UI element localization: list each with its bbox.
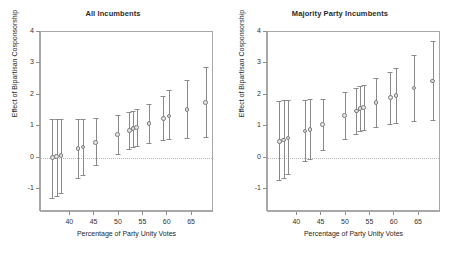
y-tick-label: 1: [30, 120, 34, 130]
error-bar-cap: [430, 120, 435, 121]
data-point: [76, 146, 81, 151]
data-point: [59, 153, 64, 158]
error-bar-cap: [394, 68, 399, 69]
error-bar-cap: [430, 41, 435, 42]
y-tick-label: 4: [30, 26, 34, 36]
panel-majority-party-incumbents: Majority Party Incumbents 4 3 2 1 0: [227, 0, 453, 260]
error-bar-cap: [80, 119, 85, 120]
error-bar-cap: [412, 121, 417, 122]
x-axis-line: [40, 211, 213, 212]
error-bar-cap: [93, 118, 98, 119]
data-point: [361, 105, 366, 110]
error-bar-cap: [307, 99, 312, 100]
y-axis-title: Effect of Bipartisan Cosponsorship: [11, 0, 18, 134]
data-point: [388, 95, 393, 100]
x-tick-label: 50: [114, 218, 122, 225]
data-point: [374, 100, 379, 105]
y-tick-label: 4: [257, 26, 261, 36]
x-tick-mark: [93, 211, 94, 215]
data-point: [394, 93, 399, 98]
error-bar-cap: [281, 178, 286, 179]
data-point: [185, 107, 190, 112]
y-tick-label: -1: [255, 183, 261, 193]
y-tick-label: 2: [257, 89, 261, 99]
error-bar-cap: [412, 55, 417, 56]
plot-area: [40, 31, 213, 211]
x-tick-mark: [118, 211, 119, 215]
error-bar-cap: [285, 174, 290, 175]
zero-reference-line: [41, 158, 212, 159]
data-point: [167, 114, 172, 119]
y-tick-label: -1: [28, 183, 34, 193]
error-bar-cap: [80, 175, 85, 176]
error-bar-cap: [58, 119, 63, 120]
error-bar-cap: [167, 90, 172, 91]
x-axis-title: Percentage of Party Unity Votes: [267, 230, 440, 237]
data-point: [134, 125, 139, 130]
error-bar-cap: [115, 115, 120, 116]
error-bar-cap: [303, 161, 308, 162]
x-axis-title: Percentage of Party Unity Votes: [40, 230, 213, 237]
x-tick-label: 50: [341, 218, 349, 225]
error-bar-cap: [203, 67, 208, 68]
data-point: [303, 129, 308, 134]
error-bar-cap: [161, 96, 166, 97]
data-point: [308, 127, 313, 132]
error-bar-cap: [134, 109, 139, 110]
error-bar-cap: [127, 149, 132, 150]
x-tick-label: 65: [187, 218, 195, 225]
plot-area: [267, 31, 440, 211]
data-point: [320, 122, 325, 127]
y-axis: 4 3 2 1 0 -1: [0, 31, 40, 211]
error-bar-cap: [354, 134, 359, 135]
x-tick-label: 65: [414, 218, 422, 225]
error-bar-cap: [58, 193, 63, 194]
error-bar-cap: [285, 100, 290, 101]
data-point: [412, 86, 417, 91]
error-bar-cap: [54, 196, 59, 197]
data-point: [161, 116, 166, 121]
y-tick-label: 2: [30, 89, 34, 99]
x-tick-label: 60: [163, 218, 171, 225]
error-bar-cap: [147, 143, 152, 144]
error-bar-cap: [361, 85, 366, 86]
error-bar-cap: [358, 131, 363, 132]
y-tick-label: 1: [257, 120, 261, 130]
panel-title: All Incumbents: [0, 9, 226, 18]
error-bar-cap: [93, 165, 98, 166]
error-bar-cap: [394, 123, 399, 124]
y-axis: 4 3 2 1 0 -1: [227, 31, 267, 211]
error-bar-cap: [374, 78, 379, 79]
error-bar-cap: [342, 139, 347, 140]
error-bar-cap: [277, 180, 282, 181]
error-bar-cap: [161, 140, 166, 141]
x-tick-label: 40: [292, 218, 300, 225]
error-bar-cap: [203, 137, 208, 138]
panel-title: Majority Party Incumbents: [227, 9, 453, 18]
x-tick-label: 45: [317, 218, 325, 225]
x-tick-label: 45: [90, 218, 98, 225]
y-axis-title: Effect of Bipartisan Cosponsorship: [238, 0, 245, 134]
x-tick-label: 55: [138, 218, 146, 225]
y-tick-label: 3: [30, 57, 34, 67]
y-tick-label: 0: [257, 152, 261, 162]
error-bar-cap: [361, 130, 366, 131]
data-point: [430, 79, 435, 84]
panel-all-incumbents: All Incumbents 4 3 2 1 0: [0, 0, 226, 260]
error-bar-cap: [388, 72, 393, 73]
data-point: [286, 136, 291, 141]
error-bar-cap: [76, 178, 81, 179]
x-axis-line: [267, 211, 440, 212]
error-bar-cap: [307, 159, 312, 160]
y-tick-label: 3: [257, 57, 261, 67]
x-tick-mark: [191, 211, 192, 215]
error-bar-cap: [388, 124, 393, 125]
error-bar-cap: [185, 80, 190, 81]
x-tick-mark: [166, 211, 167, 215]
data-point: [203, 100, 208, 105]
x-tick-label: 60: [390, 218, 398, 225]
error-bar-cap: [354, 88, 359, 89]
error-bar-cap: [115, 154, 120, 155]
error-bar-cap: [131, 147, 136, 148]
figure-root: All Incumbents 4 3 2 1 0: [0, 0, 453, 260]
